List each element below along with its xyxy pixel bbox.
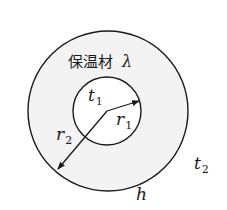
diagram-canvas [0,0,227,210]
inner-radius-label: r1 [116,111,132,128]
insulation-material-text: 保温材 [68,53,113,71]
ambient-temp-label: t2 [194,155,209,172]
lambda-symbol: λ [122,52,132,71]
inner-temp-label: t1 [88,87,103,104]
outer-radius-label: r2 [56,126,72,143]
insulation-label: 保温材 λ [68,54,132,70]
heat-transfer-coeff-label: h [136,186,147,203]
